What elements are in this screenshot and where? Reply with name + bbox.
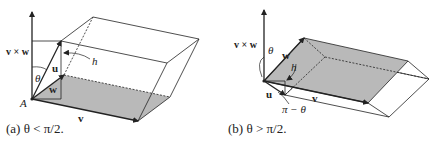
pi-minus-theta-label: π − θ bbox=[282, 104, 306, 115]
h-label-a: h bbox=[92, 56, 98, 67]
u-label-a: u bbox=[52, 63, 58, 74]
h-label-b: h bbox=[291, 62, 297, 73]
theta-label-a: θ bbox=[35, 73, 40, 84]
w-label-a: w bbox=[49, 84, 57, 95]
caption-a: (a) θ < π/2. bbox=[6, 122, 64, 135]
v-label-a: v bbox=[78, 113, 84, 124]
base-parallelogram-b bbox=[264, 38, 408, 103]
v-label-b: v bbox=[312, 93, 318, 104]
origin-label-a: A bbox=[20, 98, 27, 109]
cross-product-label-b: v × w bbox=[234, 40, 257, 50]
caption-b: (b) θ > π/2. bbox=[228, 122, 286, 135]
theta-label-b: θ bbox=[268, 45, 273, 56]
cross-product-label-a: v × w bbox=[6, 47, 29, 57]
u-label-b: u bbox=[266, 89, 272, 100]
parallelepiped-diagrams bbox=[0, 0, 432, 145]
w-label-b: w bbox=[282, 50, 290, 61]
figure-b bbox=[259, 10, 429, 117]
